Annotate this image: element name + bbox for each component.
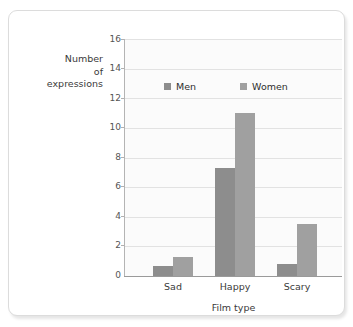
y-tick-label-6: 6	[95, 181, 121, 191]
y-tick-label-8: 8	[95, 152, 121, 162]
x-axis-title: Film type	[125, 302, 342, 313]
bar-scary-men[interactable]	[277, 264, 297, 276]
legend-label-men: Men	[176, 81, 196, 92]
y-tick-label-14: 14	[95, 63, 121, 73]
legend-entry-women[interactable]: Women	[240, 81, 288, 92]
y-axis-title-line-3: expressions	[23, 78, 103, 91]
bar-happy-men[interactable]	[215, 168, 235, 276]
legend-swatch-icon-women	[240, 83, 247, 90]
y-axis-title: Number of expressions	[23, 53, 103, 91]
bar-group-scary	[269, 39, 325, 276]
bar-sad-men[interactable]	[153, 266, 173, 276]
bar-group-happy	[207, 39, 263, 276]
bar-sad-women[interactable]	[173, 257, 193, 276]
y-axis-title-line-2: of	[23, 66, 103, 79]
x-tick-label-scary: Scary	[261, 281, 333, 292]
x-axis-line	[124, 276, 342, 277]
y-tick-label-12: 12	[95, 93, 121, 103]
bar-happy-women[interactable]	[235, 113, 255, 276]
bar-scary-women[interactable]	[297, 224, 317, 276]
chart-figure-frame: Number of expressions 16 14 12 10 8 6 4 …	[8, 10, 345, 316]
bar-group-sad	[145, 39, 201, 276]
chart-legend: Men Women	[164, 81, 288, 92]
y-tick-label-16: 16	[95, 34, 121, 44]
y-tick-label-2: 2	[95, 240, 121, 250]
plot-area	[125, 39, 342, 276]
y-axis-title-line-1: Number	[23, 53, 103, 66]
legend-label-women: Women	[252, 81, 288, 92]
y-tick-label-10: 10	[95, 122, 121, 132]
y-tick-label-4: 4	[95, 211, 121, 221]
legend-entry-men[interactable]: Men	[164, 81, 196, 92]
legend-swatch-icon-men	[164, 83, 171, 90]
y-tick-label-0: 0	[95, 270, 121, 280]
